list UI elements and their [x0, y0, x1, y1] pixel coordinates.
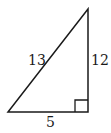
- triangle: [8, 9, 88, 112]
- vertical-leg-label: 12: [91, 52, 109, 68]
- right-angle-marker: [75, 100, 88, 112]
- right-triangle-diagram: 13 12 5: [0, 0, 111, 133]
- hypotenuse-label: 13: [28, 52, 46, 68]
- base-label: 5: [46, 114, 55, 130]
